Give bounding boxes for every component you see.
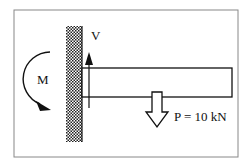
beam-diagram: V M P = 10 kN (0, 0, 249, 166)
fixed-wall (66, 26, 82, 142)
moment-label: M (37, 72, 49, 87)
load-label: P = 10 kN (174, 109, 227, 124)
shear-label: V (91, 28, 101, 43)
